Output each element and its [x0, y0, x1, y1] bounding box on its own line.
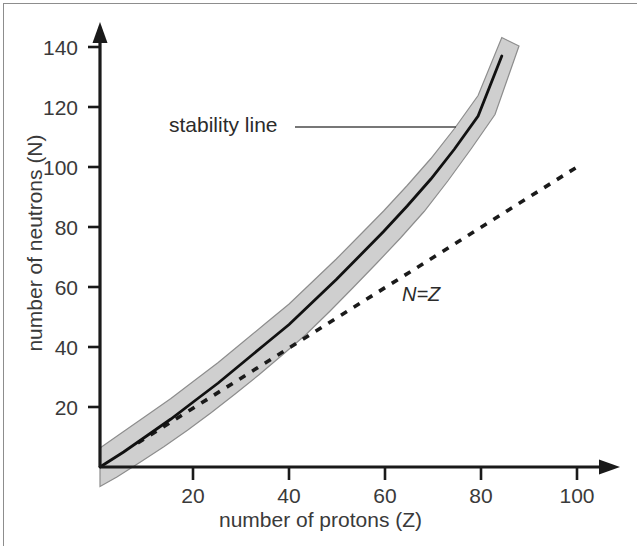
- y-axis-title: number of neutrons (N): [23, 134, 47, 351]
- x-tick-label-40: 40: [259, 484, 319, 508]
- y-tick-label-20: 20: [18, 396, 78, 420]
- x-tick-label-100: 100: [547, 484, 607, 508]
- y-tick-label-140: 140: [18, 36, 78, 60]
- stability-line-label: stability line: [169, 113, 278, 137]
- y-axis-arrowhead: [93, 22, 108, 43]
- x-tick-label-80: 80: [451, 484, 511, 508]
- n-equals-z-line: [138, 167, 577, 443]
- n-equals-z-label: N=Z: [402, 283, 440, 306]
- x-axis-arrowhead: [599, 460, 620, 475]
- chart-page: 140 120 100 80 60 40 20 20 40 60 80 100 …: [0, 0, 641, 550]
- x-axis-title: number of protons (Z): [0, 508, 641, 532]
- x-tick-label-60: 60: [355, 484, 415, 508]
- y-axis-ticks: [88, 47, 100, 407]
- stability-band-area: [100, 38, 519, 487]
- stability-line-plot: [0, 0, 641, 550]
- x-axis-ticks: [193, 467, 577, 480]
- x-tick-label-20: 20: [163, 484, 223, 508]
- y-axis-title-wrapper: number of neutrons (N): [23, 93, 53, 393]
